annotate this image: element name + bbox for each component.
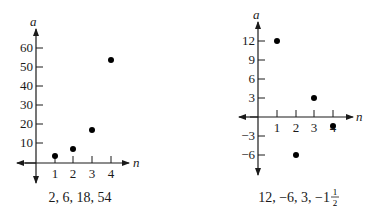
right-y-tick-label: −6	[241, 147, 255, 162]
right-y-tick-label: 3	[249, 90, 256, 105]
right-x-tick-label: 2	[293, 120, 300, 135]
right-caption: 12, −6, 3, −1 1 2	[258, 187, 339, 208]
left-chart: a n 60 50 40 30 20 10 1 2 3 4	[17, 14, 140, 205]
left-caption: 2, 6, 18, 54	[49, 190, 112, 205]
left-y-axis-label: a	[30, 14, 37, 29]
right-y-axis-label: a	[253, 7, 260, 22]
left-y-tick-label: 40	[20, 78, 33, 93]
data-point	[52, 153, 58, 159]
data-point	[70, 146, 76, 152]
left-x-ticks: 1 2 3 4	[52, 156, 115, 181]
right-x-tick-label: 3	[311, 120, 318, 135]
right-caption-frac-den: 2	[333, 198, 338, 208]
data-point	[311, 95, 317, 101]
left-y-tick-label: 30	[20, 97, 33, 112]
left-x-tick-label: 3	[89, 166, 96, 181]
data-point	[274, 38, 280, 44]
data-point	[89, 127, 95, 133]
data-point	[330, 123, 336, 129]
right-y-tick-label: 6	[249, 71, 256, 86]
left-y-tick-label: 20	[20, 116, 33, 131]
right-data-points	[274, 38, 336, 158]
right-x-tick-label: 1	[274, 120, 281, 135]
right-y-ticks: 12 9 6 3 −3 −6	[241, 33, 265, 162]
left-x-tick-label: 1	[52, 166, 59, 181]
right-caption-frac-num: 1	[333, 187, 338, 197]
right-y-tick-label: 9	[249, 52, 256, 67]
left-x-axis-label: n	[133, 155, 140, 170]
left-y-tick-label: 60	[20, 40, 33, 55]
left-x-tick-label: 4	[108, 166, 115, 181]
right-caption-main: 12, −6, 3, −1	[258, 190, 330, 205]
left-x-tick-label: 2	[70, 166, 77, 181]
left-y-tick-label: 10	[20, 135, 33, 150]
right-x-axis-label: n	[356, 109, 363, 124]
left-y-tick-label: 50	[20, 59, 33, 74]
right-chart: a n 12 9 6 3 −3 −6 1 2 3 4	[239, 7, 363, 208]
data-point	[293, 152, 299, 158]
right-y-tick-label: 12	[242, 33, 255, 48]
figure: a n 60 50 40 30 20 10 1 2 3 4	[0, 0, 378, 219]
right-x-ticks: 1 2 3 4	[274, 110, 337, 135]
left-y-ticks: 60 50 40 30 20 10	[20, 40, 43, 150]
left-data-points	[52, 57, 114, 159]
right-y-tick-label: −3	[241, 128, 255, 143]
data-point	[108, 57, 114, 63]
